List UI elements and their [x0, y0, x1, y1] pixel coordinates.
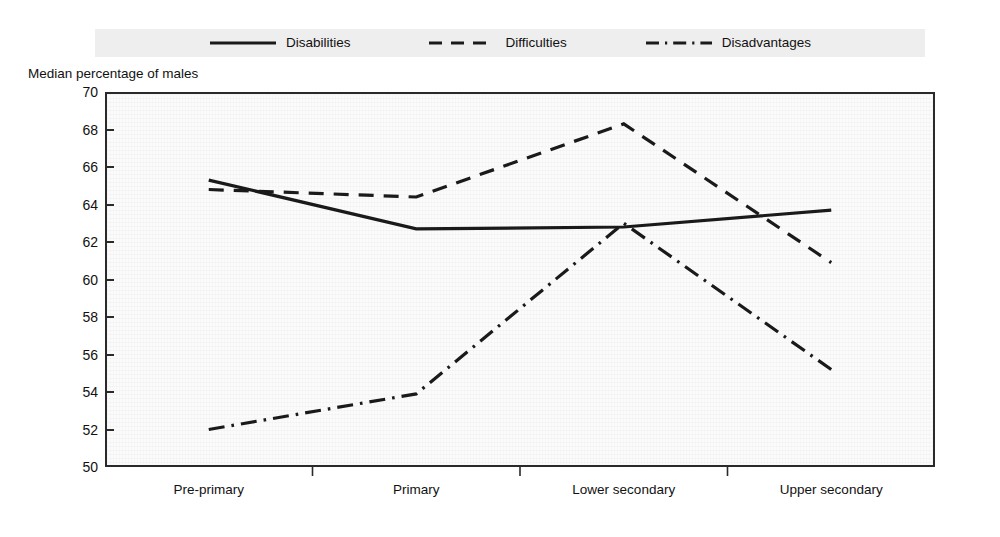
y-axis-tick-labels: 7068666462605856545250 — [44, 92, 98, 467]
y-axis-tick-label: 56 — [52, 348, 98, 362]
y-axis-tick-label: 58 — [52, 310, 98, 324]
legend-label: Disabilities — [286, 36, 351, 50]
x-axis-tick-label: Pre-primary — [173, 483, 244, 497]
y-axis-tick-mark — [105, 391, 114, 393]
dashed-line-icon — [428, 37, 496, 49]
y-axis-title: Median percentage of males — [28, 66, 198, 81]
x-axis-tick-label: Upper secondary — [780, 483, 883, 497]
legend-item-disabilities: Disabilities — [209, 29, 351, 57]
y-axis-tick-label: 54 — [52, 385, 98, 399]
solid-line-icon — [209, 37, 277, 49]
chart-figure: Disabilities Difficulties Disadvantages … — [0, 0, 1000, 537]
y-axis-tick-label: 68 — [52, 123, 98, 137]
plot-background-texture — [107, 94, 933, 465]
chart-legend: Disabilities Difficulties Disadvantages — [95, 29, 925, 57]
y-axis-tick-label: 60 — [52, 273, 98, 287]
x-axis-tick-labels: Pre-primaryPrimaryLower secondaryUpper s… — [105, 483, 935, 505]
y-axis-tick-label: 70 — [52, 85, 98, 99]
y-axis-tick-label: 64 — [52, 198, 98, 212]
y-axis-tick-mark — [105, 241, 114, 243]
y-axis-tick-mark — [105, 316, 114, 318]
y-axis-tick-mark — [105, 204, 114, 206]
x-axis-tick-label: Primary — [393, 483, 440, 497]
x-axis-tick-label: Lower secondary — [572, 483, 675, 497]
y-axis-tick-mark — [105, 354, 114, 356]
legend-label: Difficulties — [505, 36, 566, 50]
legend-label: Disadvantages — [722, 36, 811, 50]
legend-item-difficulties: Difficulties — [428, 29, 566, 57]
y-axis-tick-label: 62 — [52, 235, 98, 249]
y-axis-tick-label: 50 — [52, 460, 98, 474]
dash-dot-line-icon — [645, 37, 713, 49]
y-axis-tick-mark — [105, 279, 114, 281]
y-axis-tick-mark — [105, 429, 114, 431]
y-axis-tick-mark — [105, 166, 114, 168]
legend-item-disadvantages: Disadvantages — [645, 29, 811, 57]
y-axis-tick-label: 52 — [52, 423, 98, 437]
plot-area — [105, 92, 935, 467]
y-axis-tick-marks — [105, 92, 119, 467]
y-axis-tick-label: 66 — [52, 160, 98, 174]
y-axis-tick-mark — [105, 129, 114, 131]
